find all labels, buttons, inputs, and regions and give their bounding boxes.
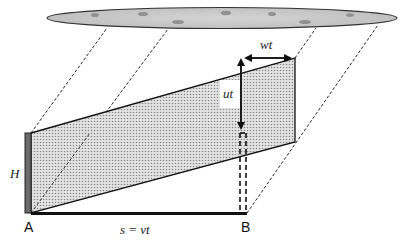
wall-bar: [25, 133, 31, 213]
label-distance: s = vt: [120, 222, 150, 237]
projection-line-top-right: [295, 28, 316, 58]
label-ut: ut: [223, 86, 234, 101]
shaded-band: [31, 58, 295, 213]
label-wt: wt: [260, 37, 273, 52]
cloud-layer: [47, 8, 397, 29]
label-b: B: [241, 219, 250, 235]
label-a: A: [24, 219, 34, 235]
diagram-canvas: wt ut H A B s = vt: [0, 0, 408, 245]
label-h: H: [9, 166, 20, 181]
